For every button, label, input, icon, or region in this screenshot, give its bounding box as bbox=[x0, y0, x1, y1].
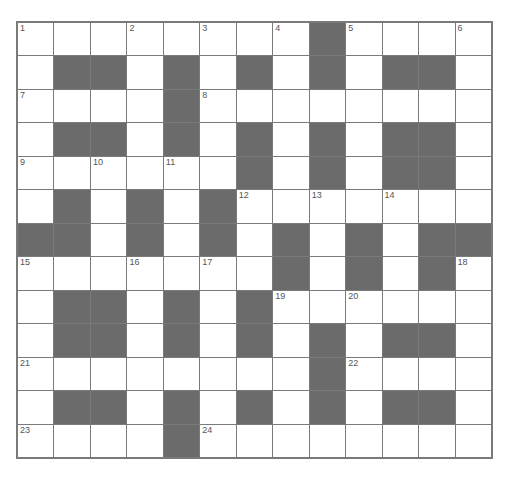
crossword-cell[interactable] bbox=[273, 123, 308, 155]
crossword-cell[interactable] bbox=[419, 291, 454, 323]
crossword-cell[interactable] bbox=[127, 291, 162, 323]
crossword-cell[interactable] bbox=[419, 90, 454, 122]
crossword-cell[interactable] bbox=[456, 157, 491, 189]
crossword-cell[interactable]: 11 bbox=[164, 157, 199, 189]
crossword-cell[interactable] bbox=[127, 391, 162, 423]
crossword-cell[interactable] bbox=[383, 23, 418, 55]
crossword-cell[interactable] bbox=[419, 23, 454, 55]
crossword-cell[interactable] bbox=[18, 56, 53, 88]
crossword-cell[interactable] bbox=[127, 157, 162, 189]
crossword-cell[interactable] bbox=[273, 391, 308, 423]
crossword-cell[interactable] bbox=[346, 90, 381, 122]
crossword-cell[interactable] bbox=[127, 123, 162, 155]
crossword-cell[interactable]: 21 bbox=[18, 358, 53, 390]
crossword-cell[interactable] bbox=[346, 190, 381, 222]
crossword-cell[interactable]: 17 bbox=[200, 257, 235, 289]
crossword-cell[interactable] bbox=[127, 90, 162, 122]
crossword-cell[interactable] bbox=[54, 23, 89, 55]
crossword-cell[interactable]: 10 bbox=[91, 157, 126, 189]
crossword-cell[interactable] bbox=[54, 157, 89, 189]
crossword-cell[interactable] bbox=[383, 257, 418, 289]
crossword-cell[interactable] bbox=[383, 425, 418, 457]
crossword-cell[interactable] bbox=[54, 358, 89, 390]
crossword-cell[interactable]: 22 bbox=[346, 358, 381, 390]
crossword-cell[interactable] bbox=[273, 190, 308, 222]
crossword-cell[interactable] bbox=[18, 190, 53, 222]
crossword-cell[interactable]: 9 bbox=[18, 157, 53, 189]
crossword-cell[interactable] bbox=[273, 56, 308, 88]
crossword-cell[interactable] bbox=[18, 391, 53, 423]
crossword-cell[interactable]: 4 bbox=[273, 23, 308, 55]
crossword-cell[interactable] bbox=[346, 425, 381, 457]
crossword-cell[interactable] bbox=[91, 23, 126, 55]
crossword-cell[interactable]: 7 bbox=[18, 90, 53, 122]
crossword-cell[interactable] bbox=[237, 224, 272, 256]
crossword-cell[interactable] bbox=[237, 358, 272, 390]
crossword-cell[interactable]: 15 bbox=[18, 257, 53, 289]
crossword-cell[interactable] bbox=[91, 358, 126, 390]
crossword-cell[interactable] bbox=[456, 56, 491, 88]
crossword-cell[interactable] bbox=[200, 291, 235, 323]
crossword-cell[interactable] bbox=[18, 324, 53, 356]
crossword-cell[interactable] bbox=[346, 324, 381, 356]
crossword-cell[interactable] bbox=[237, 257, 272, 289]
crossword-cell[interactable] bbox=[456, 190, 491, 222]
crossword-cell[interactable] bbox=[237, 23, 272, 55]
crossword-cell[interactable]: 6 bbox=[456, 23, 491, 55]
crossword-cell[interactable] bbox=[310, 224, 345, 256]
crossword-cell[interactable]: 20 bbox=[346, 291, 381, 323]
crossword-cell[interactable] bbox=[200, 358, 235, 390]
crossword-cell[interactable]: 3 bbox=[200, 23, 235, 55]
crossword-cell[interactable] bbox=[456, 358, 491, 390]
crossword-cell[interactable]: 24 bbox=[200, 425, 235, 457]
crossword-cell[interactable] bbox=[54, 257, 89, 289]
crossword-cell[interactable] bbox=[91, 425, 126, 457]
crossword-cell[interactable] bbox=[237, 90, 272, 122]
crossword-cell[interactable] bbox=[310, 257, 345, 289]
crossword-cell[interactable] bbox=[18, 123, 53, 155]
crossword-cell[interactable] bbox=[54, 90, 89, 122]
crossword-cell[interactable] bbox=[273, 90, 308, 122]
crossword-cell[interactable] bbox=[456, 324, 491, 356]
crossword-cell[interactable] bbox=[200, 157, 235, 189]
crossword-cell[interactable] bbox=[164, 358, 199, 390]
crossword-cell[interactable] bbox=[383, 90, 418, 122]
crossword-cell[interactable] bbox=[419, 190, 454, 222]
crossword-cell[interactable] bbox=[91, 224, 126, 256]
crossword-cell[interactable] bbox=[200, 56, 235, 88]
crossword-cell[interactable] bbox=[346, 56, 381, 88]
crossword-cell[interactable] bbox=[456, 291, 491, 323]
crossword-cell[interactable]: 5 bbox=[346, 23, 381, 55]
crossword-cell[interactable]: 16 bbox=[127, 257, 162, 289]
crossword-cell[interactable] bbox=[127, 425, 162, 457]
crossword-cell[interactable] bbox=[200, 324, 235, 356]
crossword-cell[interactable] bbox=[346, 391, 381, 423]
crossword-cell[interactable] bbox=[200, 123, 235, 155]
crossword-cell[interactable] bbox=[273, 358, 308, 390]
crossword-cell[interactable] bbox=[273, 425, 308, 457]
crossword-cell[interactable]: 14 bbox=[383, 190, 418, 222]
crossword-cell[interactable] bbox=[456, 90, 491, 122]
crossword-cell[interactable] bbox=[273, 324, 308, 356]
crossword-cell[interactable] bbox=[310, 90, 345, 122]
crossword-cell[interactable]: 8 bbox=[200, 90, 235, 122]
crossword-cell[interactable] bbox=[91, 90, 126, 122]
crossword-cell[interactable]: 18 bbox=[456, 257, 491, 289]
crossword-cell[interactable] bbox=[200, 391, 235, 423]
crossword-cell[interactable] bbox=[383, 291, 418, 323]
crossword-cell[interactable] bbox=[310, 291, 345, 323]
crossword-cell[interactable]: 13 bbox=[310, 190, 345, 222]
crossword-cell[interactable] bbox=[383, 224, 418, 256]
crossword-cell[interactable]: 19 bbox=[273, 291, 308, 323]
crossword-cell[interactable] bbox=[91, 190, 126, 222]
crossword-cell[interactable] bbox=[346, 123, 381, 155]
crossword-cell[interactable] bbox=[383, 358, 418, 390]
crossword-cell[interactable]: 1 bbox=[18, 23, 53, 55]
crossword-cell[interactable] bbox=[164, 23, 199, 55]
crossword-cell[interactable] bbox=[54, 425, 89, 457]
crossword-cell[interactable]: 23 bbox=[18, 425, 53, 457]
crossword-cell[interactable] bbox=[164, 257, 199, 289]
crossword-cell[interactable] bbox=[419, 358, 454, 390]
crossword-cell[interactable] bbox=[127, 56, 162, 88]
crossword-cell[interactable] bbox=[310, 425, 345, 457]
